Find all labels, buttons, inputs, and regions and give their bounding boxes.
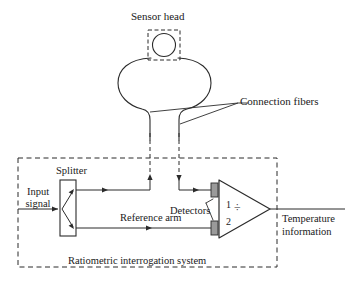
input-signal-label: Input signal	[16, 186, 60, 210]
sensor-head-circle	[153, 34, 176, 57]
detector-1-rect	[211, 183, 218, 197]
detector-1-label: 1	[226, 199, 231, 210]
reference-arm-arrowhead	[146, 225, 152, 230]
system-caption-label: Ratiometric interrogation system	[68, 255, 206, 267]
figure-canvas: Sensor head Connection fibers Splitter I…	[0, 0, 353, 286]
temperature-information-line2: information	[282, 226, 335, 239]
detector-2-label: 2	[226, 216, 231, 227]
sensing-arm-path	[76, 176, 150, 190]
return-arm-path	[179, 176, 211, 190]
return-arm-arrowhead	[193, 187, 199, 192]
detectors-label: Detectors	[170, 205, 210, 217]
input-signal-label-line1: Input	[16, 186, 60, 198]
diagram-graphics	[0, 0, 353, 286]
input-signal-label-line2: signal	[16, 198, 60, 210]
sensor-bulb-right-outline	[178, 58, 211, 140]
sensing-arm-up-arrowhead	[147, 174, 152, 180]
return-arm-down-arrowhead	[176, 175, 181, 181]
temperature-information-line1: Temperature	[282, 213, 335, 226]
divider-symbol-label: ÷	[234, 201, 241, 214]
connection-fibers-label: Connection fibers	[240, 95, 319, 107]
temperature-information-label: Temperature information	[282, 213, 335, 238]
sensing-arm-arrowhead	[102, 187, 108, 192]
splitter-label: Splitter	[56, 165, 87, 177]
sensor-head-label: Sensor head	[131, 10, 184, 22]
detector-2-rect	[211, 221, 218, 235]
sensor-bulb-left-outline	[118, 58, 151, 140]
